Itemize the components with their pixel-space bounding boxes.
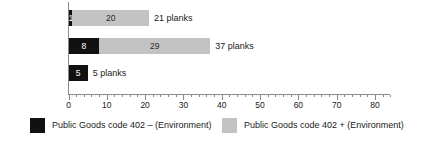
x-axis-minor-tick: [214, 95, 215, 97]
x-axis-minor-tick: [153, 95, 154, 97]
bar-segment-value-negative: 8: [69, 38, 100, 54]
x-axis-minor-tick: [237, 95, 238, 97]
x-axis-minor-tick: [91, 95, 92, 97]
x-axis-tick-label: 60: [294, 100, 303, 110]
bar-segment-value-positive: 20: [72, 10, 149, 26]
chart-legend: Public Goods code 402 – (Environment) Pu…: [0, 116, 422, 138]
legend-swatch-positive-icon: [222, 118, 237, 133]
x-axis-minor-tick: [99, 95, 100, 97]
x-axis-minor-tick: [268, 95, 269, 97]
x-axis-minor-tick: [383, 95, 384, 97]
x-axis-minor-tick: [137, 95, 138, 97]
plot-area: 01020304050607080 1940–1976 1 20 21 plan…: [0, 0, 422, 100]
x-axis-minor-tick: [314, 95, 315, 97]
x-axis-minor-tick: [291, 95, 292, 97]
x-axis-minor-tick: [160, 95, 161, 97]
x-axis-tick-label: 20: [140, 100, 149, 110]
legend-swatch-negative-icon: [30, 118, 45, 133]
x-axis-minor-tick: [84, 95, 85, 97]
x-axis-minor-tick: [360, 95, 361, 97]
bar-total-label: 5 planks: [93, 65, 127, 81]
x-axis-minor-tick: [206, 95, 207, 97]
legend-item-negative[interactable]: Public Goods code 402 – (Environment): [30, 116, 212, 134]
x-axis-minor-tick: [76, 95, 77, 97]
bar-total-label: 37 planks: [215, 38, 254, 54]
x-axis-tick-label: 30: [179, 100, 188, 110]
bar-segment-value-negative: 5: [69, 65, 88, 81]
x-axis-minor-tick: [191, 95, 192, 97]
x-axis-tick-label: 70: [332, 100, 341, 110]
x-axis-minor-tick: [344, 95, 345, 97]
x-axis-tick-label: 10: [102, 100, 111, 110]
x-axis-tick-label: 0: [66, 100, 71, 110]
x-axis-minor-tick: [168, 95, 169, 97]
x-axis-minor-tick: [176, 95, 177, 97]
x-axis-minor-tick: [306, 95, 307, 97]
x-axis-tick-label: 80: [370, 100, 379, 110]
x-axis-minor-tick: [130, 95, 131, 97]
x-axis-minor-tick: [367, 95, 368, 97]
bar-total-label: 21 planks: [154, 10, 193, 26]
x-axis-minor-tick: [245, 95, 246, 97]
x-axis-tick-label: 50: [255, 100, 264, 110]
x-axis-minor-tick: [390, 95, 391, 97]
legend-label: Public Goods code 402 + (Environment): [244, 120, 404, 130]
legend-item-positive[interactable]: Public Goods code 402 + (Environment): [222, 116, 404, 134]
x-axis-minor-tick: [329, 95, 330, 97]
bar-segment-value-positive: 29: [99, 38, 210, 54]
x-axis-minor-tick: [114, 95, 115, 97]
legend-label: Public Goods code 402 – (Environment): [52, 120, 212, 130]
x-axis-minor-tick: [229, 95, 230, 97]
x-axis-tick-label: 40: [217, 100, 226, 110]
x-axis-minor-tick: [283, 95, 284, 97]
x-axis-minor-tick: [252, 95, 253, 97]
stacked-bar-chart: 01020304050607080 1940–1976 1 20 21 plan…: [0, 0, 422, 143]
x-axis-minor-tick: [122, 95, 123, 97]
x-axis-minor-tick: [199, 95, 200, 97]
x-axis-minor-tick: [275, 95, 276, 97]
x-axis-minor-tick: [321, 95, 322, 97]
x-axis-minor-tick: [352, 95, 353, 97]
